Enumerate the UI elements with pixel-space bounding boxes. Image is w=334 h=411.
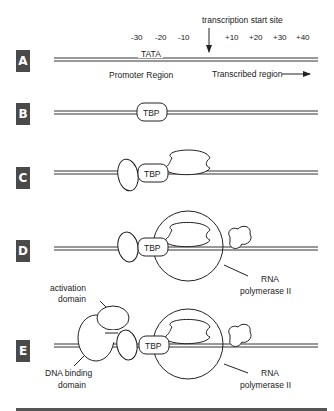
rna-pol-leader [224,265,248,276]
tfiia-ellipse [115,328,140,361]
tfiia-ellipse [116,230,141,263]
position-p20: +20 [249,33,263,42]
activation-domain-line2: domain [58,294,86,304]
position-m20: -20 [155,33,167,42]
tfiif-shape [229,226,251,248]
transcribed-region-label: Transcribed region [212,69,283,79]
position-p10: +10 [225,33,239,42]
rna-pol-label-line2: polymerase II [240,380,291,390]
rna-pol-leader [224,364,248,373]
position-m10: -10 [178,33,190,42]
tbp-label: TBP [144,169,161,179]
tfiib-shape [165,150,210,175]
activation-domain-shape [97,306,129,330]
dna-binding-leader [74,356,84,366]
diagram-canvas: transcription start site -30 -20 -10 +10… [0,0,334,411]
tbp-label: TBP [143,108,160,118]
tfiia-ellipse [115,158,140,193]
promoter-region-label: Promoter Region [109,70,174,80]
panel-b: TBP [54,103,318,121]
rna-pol-label-line1: RNA [261,274,279,284]
tbp-label: TBP [145,341,162,351]
rna-pol-label-line2: polymerase II [240,286,291,296]
position-m30: -30 [131,33,143,42]
panel-e: activation domain TBP DNA binding domain… [45,283,318,390]
tata-label: TATA [141,49,161,59]
activation-domain-line1: activation [50,283,86,293]
position-p40: +40 [296,33,310,42]
start-site-label: transcription start site [202,15,283,25]
panel-c: TBP [54,150,318,192]
panel-d: TBP RNA polymerase II [54,211,318,296]
dna-binding-line2: domain [58,380,86,390]
tfiib-shape [165,319,210,343]
position-p30: +30 [273,33,287,42]
tbp-label: TBP [144,243,161,253]
tfiib-shape [165,222,210,246]
dna-binding-line1: DNA binding [45,368,93,378]
rna-pol-label-line1: RNA [261,368,279,378]
tfiif-shape [229,324,251,346]
panel-a: transcription start site -30 -20 -10 +10… [54,15,318,80]
